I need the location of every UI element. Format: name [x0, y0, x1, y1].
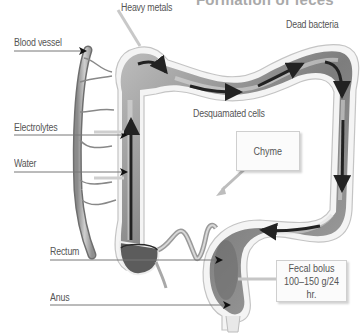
feces-formation-diagram: Formation of feces Heavy metals Dead bac…	[0, 0, 363, 333]
label-anus: Anus	[50, 292, 69, 303]
label-electrolytes: Electrolytes	[14, 122, 57, 133]
label-blood-vessel: Blood vessel	[14, 37, 62, 48]
chyme-pointer	[222, 168, 246, 190]
label-heavy-metals: Heavy metals	[121, 2, 172, 13]
label-rectum: Rectum	[50, 246, 79, 257]
chyme-text: Chyme	[254, 145, 283, 158]
fecal-bolus-callout: Fecal bolus 100–150 g/24 hr.	[276, 260, 347, 302]
fecal-bolus-text: Fecal bolus	[288, 262, 334, 275]
label-dead-bacteria: Dead bacteria	[286, 19, 339, 30]
label-desquamated-cells: Desquamated cells	[193, 108, 265, 119]
diagram-title: Formation of feces	[196, 0, 334, 8]
blood-vessel	[77, 50, 116, 255]
heavy-metals-pointer	[118, 10, 140, 46]
fecal-bolus-amount: 100–150 g/24 hr.	[280, 275, 342, 301]
chyme-callout: Chyme	[236, 131, 300, 171]
label-water: Water	[14, 158, 36, 169]
